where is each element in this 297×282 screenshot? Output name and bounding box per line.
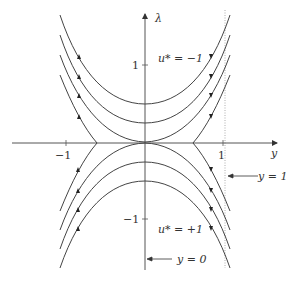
arrow-down-icon — [209, 167, 213, 172]
lambda-axis-label: λ — [154, 12, 162, 25]
pointer-arrows — [147, 174, 258, 261]
trajectory-upper-right-cusp — [193, 75, 230, 143]
tick-label-y-1: 1 — [218, 149, 225, 162]
phase-diagram: λ y −1 1 1 −1 u* = −1 u* = +1 y = 1 y = … — [0, 0, 297, 282]
tick-label-lambda-neg1: −1 — [123, 213, 139, 226]
label-y-equals-0: y = 0 — [176, 253, 206, 266]
y-axis-label: y — [270, 147, 278, 160]
tick-label-y-neg1: −1 — [55, 149, 71, 162]
arrow-up-icon — [76, 207, 80, 212]
arrow-left-icon — [147, 257, 152, 261]
trajectory-upper-left-cusp — [60, 75, 97, 143]
region-label-upper: u* = −1 — [158, 52, 203, 65]
label-y-equals-1: y = 1 — [257, 170, 287, 183]
diagram-canvas: λ y −1 1 1 −1 u* = −1 u* = +1 y = 1 y = … — [0, 0, 297, 282]
arrow-left-icon — [228, 174, 233, 178]
tick-label-lambda-1: 1 — [132, 59, 139, 72]
arrow-up-icon — [76, 226, 80, 231]
region-label-lower: u* = +1 — [158, 223, 203, 236]
arrow-up-icon — [77, 114, 81, 119]
